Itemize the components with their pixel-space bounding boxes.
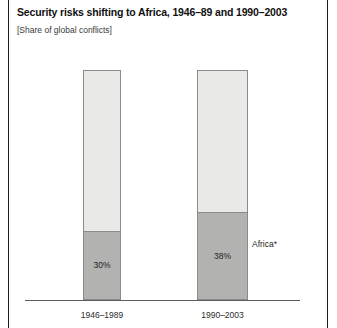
stacked-bar[interactable]: 38% bbox=[197, 70, 248, 300]
bar-value-label: 38% bbox=[198, 251, 247, 261]
bar-group-1990-2003: 38% 1990–2003 bbox=[197, 70, 248, 300]
bar-segment-africa[interactable]: 30% bbox=[84, 231, 120, 299]
chart-plot-area: 30% 1946–1989 38% 1990–2003 Africa* bbox=[0, 0, 337, 328]
bar-group-1946-1989: 30% 1946–1989 bbox=[83, 70, 121, 300]
bar-value-label: 30% bbox=[84, 260, 120, 270]
bar-segment-rest-of-world[interactable] bbox=[84, 71, 120, 231]
x-axis-label-1946-1989: 1946–1989 bbox=[81, 310, 124, 320]
series-annotation-africa: Africa* bbox=[252, 239, 277, 249]
x-axis-baseline bbox=[25, 300, 300, 301]
bar-segment-africa[interactable]: 38% bbox=[198, 212, 247, 299]
x-axis-label-1990-2003: 1990–2003 bbox=[201, 310, 244, 320]
bar-segment-rest-of-world[interactable] bbox=[198, 71, 247, 212]
stacked-bar[interactable]: 30% bbox=[83, 70, 121, 300]
